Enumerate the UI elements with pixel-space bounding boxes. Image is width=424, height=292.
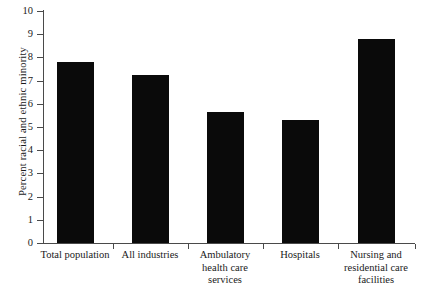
x-axis-category-label-line: facilities — [328, 274, 424, 287]
x-axis-category-label-line: residential care — [328, 262, 424, 275]
y-axis-tick — [37, 57, 43, 58]
y-axis-tick-label: 1 — [0, 215, 33, 226]
y-axis-tick — [37, 81, 43, 82]
y-axis-tick — [37, 197, 43, 198]
y-axis-tick-label: 7 — [0, 76, 33, 87]
y-axis-tick-label: 9 — [0, 29, 33, 40]
y-axis-tick-label: 2 — [0, 192, 33, 203]
bar — [132, 75, 169, 243]
x-axis-line — [43, 243, 415, 244]
y-axis-tick — [37, 243, 43, 244]
x-axis-category-label-line: health care — [177, 262, 273, 275]
y-axis-tick — [37, 150, 43, 151]
bar — [57, 62, 94, 243]
y-axis-tick — [37, 173, 43, 174]
y-axis-tick — [37, 104, 43, 105]
y-axis-tick-label: 5 — [0, 122, 33, 133]
y-axis-tick-label: 4 — [0, 145, 33, 156]
y-axis-tick-label: 0 — [0, 238, 33, 249]
y-axis-tick-label: 10 — [0, 6, 33, 17]
y-axis-tick-label: 8 — [0, 52, 33, 63]
x-axis-category-label: Nursing andresidential carefacilities — [328, 249, 424, 287]
y-axis-tick — [37, 11, 43, 12]
bar — [207, 112, 244, 243]
y-axis-tick-label: 3 — [0, 168, 33, 179]
x-axis-category-label-line: Nursing and — [328, 249, 424, 262]
y-axis-tick — [37, 34, 43, 35]
bar-chart: Percent racial and ethnic minority 01234… — [0, 0, 424, 292]
x-axis-category-label-line: services — [177, 274, 273, 287]
y-axis-tick — [37, 127, 43, 128]
y-axis-tick — [37, 220, 43, 221]
y-axis-tick-label: 6 — [0, 99, 33, 110]
y-axis-line — [43, 10, 44, 244]
bar — [358, 39, 395, 243]
bar — [282, 120, 319, 243]
